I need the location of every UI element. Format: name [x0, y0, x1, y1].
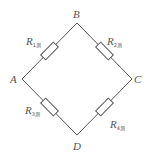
resistor-r3-label: R3测 [24, 104, 40, 118]
resistor-r3-symbol [41, 98, 59, 116]
node-label-d: D [72, 140, 81, 152]
resistor-r4-symbol [96, 98, 114, 116]
resistor-r1-symbol [41, 42, 59, 60]
resistor-r2-label: R2测 [106, 35, 122, 49]
node-label-c: C [134, 73, 142, 85]
node-label-a: A [9, 73, 17, 85]
node-label-b: B [73, 8, 80, 20]
resistor-r1-label: R1测 [25, 35, 41, 49]
resistor-r4-label: R4测 [109, 118, 125, 132]
bridge-circuit-diagram: B A C D R1测 R2测 R3测 R4测 [0, 0, 149, 155]
